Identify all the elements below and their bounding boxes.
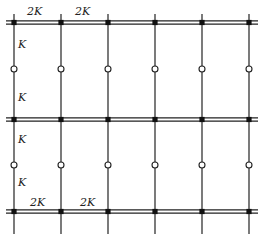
rigid-joint-node bbox=[58, 209, 63, 214]
hinge-circle-icon bbox=[246, 66, 252, 72]
hinge-circle-icon bbox=[199, 162, 205, 168]
columns bbox=[14, 14, 249, 234]
rigid-joint-node bbox=[152, 20, 157, 25]
hinge-circle-icon bbox=[58, 162, 64, 168]
hinge-circle-icon bbox=[105, 162, 111, 168]
hinges bbox=[11, 66, 252, 168]
label-top-beam-2: 2K bbox=[74, 5, 91, 18]
rigid-joint-node bbox=[152, 117, 157, 122]
rigid-joint-node bbox=[246, 117, 251, 122]
label-upper-column-bottom: K bbox=[17, 91, 27, 104]
rigid-joint-node bbox=[199, 117, 204, 122]
label-bottom-beam-2: 2K bbox=[79, 196, 96, 209]
diagram-canvas: 2K 2K K K K K 2K 2K bbox=[0, 0, 261, 234]
rigid-joint-node bbox=[11, 20, 16, 25]
hinge-circle-icon bbox=[152, 66, 158, 72]
frame-diagram: 2K 2K K K K K 2K 2K bbox=[0, 0, 261, 234]
rigid-joint-node bbox=[105, 209, 110, 214]
label-upper-column-top: K bbox=[17, 38, 27, 51]
rigid-joint-node bbox=[58, 117, 63, 122]
label-top-beam-1: 2K bbox=[26, 5, 43, 18]
hinge-circle-icon bbox=[246, 162, 252, 168]
rigid-joint-node bbox=[105, 20, 110, 25]
hinge-circle-icon bbox=[11, 162, 17, 168]
rigid-joint-node bbox=[105, 117, 110, 122]
rigid-joint-node bbox=[58, 20, 63, 25]
rigid-joint-node bbox=[246, 20, 251, 25]
rigid-joint-node bbox=[152, 209, 157, 214]
hinge-circle-icon bbox=[152, 162, 158, 168]
rigid-joint-node bbox=[11, 117, 16, 122]
hinge-circle-icon bbox=[105, 66, 111, 72]
hinge-circle-icon bbox=[58, 66, 64, 72]
label-lower-column-bottom: K bbox=[17, 176, 27, 189]
rigid-joint-node bbox=[246, 209, 251, 214]
rigid-joint-node bbox=[199, 209, 204, 214]
hinge-circle-icon bbox=[199, 66, 205, 72]
hinge-circle-icon bbox=[11, 66, 17, 72]
label-bottom-beam-1: 2K bbox=[29, 196, 46, 209]
rigid-joint-node bbox=[199, 20, 204, 25]
beams bbox=[6, 21, 258, 213]
rigid-joint-node bbox=[11, 209, 16, 214]
rigid-joints bbox=[11, 20, 251, 214]
label-lower-column-top: K bbox=[17, 133, 27, 146]
